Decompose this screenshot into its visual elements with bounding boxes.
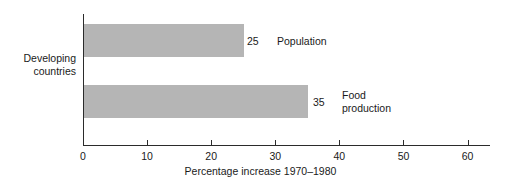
x-axis-title-text: Percentage increase 1970–1980 — [185, 165, 337, 177]
series-label-food-production-line1: Food — [342, 89, 391, 102]
tick-label: 30 — [269, 150, 281, 162]
tick-mark — [147, 140, 148, 145]
category-axis-label-line2: countries — [0, 65, 76, 78]
tick-mark — [468, 140, 469, 145]
plot-area: 0102030405060 — [83, 14, 490, 146]
tick-label: 0 — [80, 150, 86, 162]
tick-label: 10 — [141, 150, 153, 162]
tick-mark — [403, 140, 404, 145]
tick-mark — [339, 140, 340, 145]
tick-mark — [83, 140, 84, 145]
series-label-food-production: Food production — [342, 89, 391, 115]
bar-food-production — [84, 85, 308, 118]
tick-label: 20 — [205, 150, 217, 162]
tick-label: 40 — [334, 150, 346, 162]
series-label-population: Population — [277, 35, 327, 48]
bar-chart: Developing countries 0102030405060 25 35… — [0, 0, 509, 186]
tick-label: 50 — [398, 150, 410, 162]
category-axis-label: Developing countries — [0, 52, 76, 78]
tick-label: 60 — [462, 150, 474, 162]
bar-population — [84, 24, 244, 57]
category-axis-label-line1: Developing — [0, 52, 76, 65]
tick-mark — [275, 140, 276, 145]
value-label-food-production: 35 — [313, 96, 325, 108]
x-axis-title: Percentage increase 1970–1980 — [0, 165, 509, 177]
series-label-population-line1: Population — [277, 35, 327, 48]
category-axis-line — [83, 145, 490, 146]
value-label-population: 25 — [247, 35, 259, 47]
series-label-food-production-line2: production — [342, 102, 391, 115]
tick-mark — [211, 140, 212, 145]
